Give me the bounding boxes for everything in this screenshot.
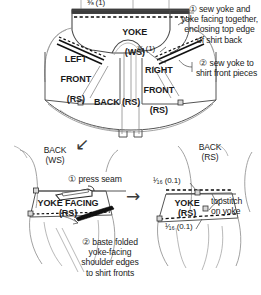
bl-piece-label-back: BACK (WS) [30,146,80,165]
measurement-yoke-top: ⅜ (1) [73,0,119,7]
piece-label-right-front-line3: (RS) [150,105,168,115]
bl-back-right-curve [106,150,118,172]
bl-front-left-drop [30,217,43,264]
piece-label-back: BACK (RS) [82,97,152,107]
piece-label-right-front-line1: RIGHT [145,65,173,75]
piece-label-right-front: RIGHT FRONT (RS) [128,55,180,125]
piece-label-left-front-line2: FRONT [61,74,92,84]
step-1-sew-yoke-and-facing: ① sew yoke and yoke facing together, enc… [178,4,261,45]
bl-step-baste-shoulder-edges: ② baste folded yoke-facing shoulder edge… [58,237,162,278]
br-piece-label-back: BACK (RS) [184,143,236,162]
bl-step-press-seam: ① press seam [56,174,134,184]
back-vent-tab-right [134,130,142,137]
sewing-instruction-diagram: .fab { fill:none; stroke:#8a8a8a; stroke… [0,0,261,295]
step2-leader [179,60,192,67]
bl-notch-top [34,188,39,193]
bl-piece-label-yoke-facing: YOKE FACING (RS) [18,198,118,218]
br-front-inner-a [176,228,186,268]
br-front-inner-b [216,226,223,268]
piece-label-right-front-line2: FRONT [144,85,175,95]
br-notch-bottom [157,216,162,221]
br-topstitch-note: topstitch on yoke [211,196,261,216]
piece-label-left-front-line1: LEFT [65,54,87,64]
piece-label-yoke-line1: YOKE [122,27,147,37]
arrow-right-icon: → [126,188,140,205]
br-piece-label-yoke: YOKE (RS) [164,198,210,218]
br-notch-top [195,190,200,195]
br-measurement-bottom: ¹⁄₁₆ (0.1) [165,222,221,231]
measurement-right-front: ⅜ (1) [127,44,165,53]
step-2-sew-yoke-to-fronts: ② sew yoke to shirt front pieces [192,58,261,78]
br-front-right-drop [236,218,241,266]
br-measurement-top: ¹⁄₁₆ (0.1) [153,176,209,185]
